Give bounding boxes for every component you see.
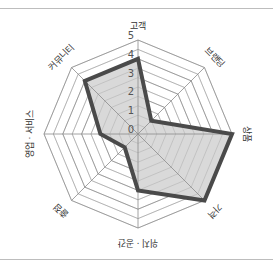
tick-label: 2 (128, 86, 134, 97)
tick-label: 5 (128, 30, 134, 41)
tick-label: 4 (128, 49, 134, 60)
radar-chart: 012345 고객브랜딩상품가격위치 · 공간출점영업 · 서비스커뮤니티 (0, 0, 273, 268)
category-label: 위치 · 공간 (118, 238, 159, 249)
category-label: 브랜딩 (203, 45, 227, 69)
category-label: 영업 · 서비스 (25, 110, 35, 159)
category-label: 가격 (206, 202, 225, 221)
category-label: 출점 (51, 202, 70, 221)
radar-spokes (44, 40, 232, 228)
tick-label: 0 (128, 124, 134, 135)
tick-label: 1 (128, 105, 134, 116)
category-label: 상품 (242, 126, 252, 142)
category-label: 고객 (130, 21, 146, 31)
tick-label: 3 (128, 68, 134, 79)
